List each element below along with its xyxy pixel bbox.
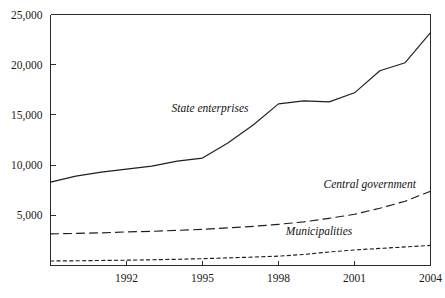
y-tick-label: 15,000 (11, 109, 43, 122)
chart-canvas: 5,00010,00015,00020,00025,000 1992199519… (0, 0, 445, 298)
y-axis: 5,00010,00015,00020,00025,000 (11, 9, 431, 266)
line-chart: 5,00010,00015,00020,00025,000 1992199519… (0, 0, 445, 298)
x-axis: 19921995199820012004 (51, 261, 443, 284)
series-line-central-government (51, 191, 431, 234)
x-tick-label: 2001 (343, 272, 366, 284)
series-labels-group: State enterprisesCentral governmentMunic… (172, 102, 417, 238)
y-tick-label: 5,000 (17, 209, 43, 222)
y-tick-label: 25,000 (11, 9, 43, 22)
x-tick-label: 1992 (115, 272, 138, 284)
y-tick-label: 20,000 (11, 59, 43, 72)
series-line-municipalities (51, 245, 431, 261)
series-label-central-government: Central government (324, 178, 417, 191)
x-tick-label: 1995 (191, 272, 214, 284)
series-label-municipalities: Municipalities (285, 225, 353, 238)
y-tick-label: 10,000 (11, 159, 43, 172)
x-tick-label: 2004 (419, 272, 442, 284)
x-tick-label: 1998 (267, 272, 290, 284)
series-group (51, 33, 431, 261)
series-label-state-enterprises: State enterprises (172, 102, 249, 115)
